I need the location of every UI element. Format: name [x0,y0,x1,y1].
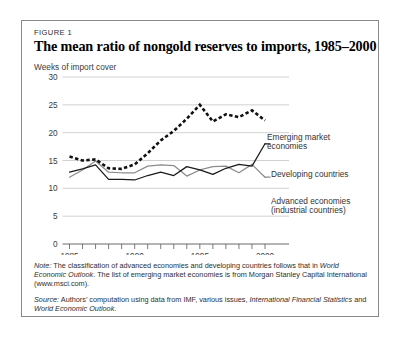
line-chart-svg: 051015202530 1985199019952000 [22,73,380,255]
legend-label-advanced-economies: Advanced economies (industrial countries… [271,197,350,216]
source-text-part2: and [352,295,366,304]
legend-label-emerging-market-economies: Emerging market economies [267,133,330,152]
svg-text:2000: 2000 [256,252,275,255]
series-line-emerging-market-economies [70,105,266,169]
svg-text:1990: 1990 [126,252,145,255]
source-text-part1: Authors’ computation using data from IMF… [59,295,249,304]
y-axis-tick-labels: 051015202530 [48,73,58,249]
source-lead-label: Source: [34,295,59,304]
figure-label: FIGURE 1 [34,28,72,37]
legend-emerging-line2: economies [267,141,307,151]
svg-text:30: 30 [48,73,58,82]
note-text-part1: The classification of advanced economies… [51,261,319,270]
svg-text:0: 0 [53,240,58,249]
figure-note: Note: The classification of advanced eco… [34,261,370,289]
gridlines-group [63,77,290,216]
svg-text:10: 10 [48,184,58,193]
legend-developing-line1: Developing countries [271,169,348,179]
source-italic-ifs: International Financial Statistics [250,295,353,304]
svg-text:15: 15 [48,157,58,166]
note-lead-label: Note: [34,261,51,270]
svg-text:1985: 1985 [60,252,79,255]
x-axis [63,244,290,249]
source-italic-weo-2: World Economic Outlook [34,304,114,313]
legend-label-developing-countries: Developing countries [271,170,348,179]
figure-card: FIGURE 1 The mean ratio of nongold reser… [21,20,379,317]
svg-text:5: 5 [53,212,58,221]
svg-text:1995: 1995 [191,252,210,255]
svg-text:20: 20 [48,129,58,138]
page-title: The mean ratio of nongold reserves to im… [34,38,372,55]
svg-text:25: 25 [48,101,58,110]
legend-advanced-line2: (industrial countries) [271,205,346,215]
source-text-part3: . [114,304,116,313]
figure-source: Source: Authors’ computation using data … [34,295,370,313]
x-axis-tick-labels: 1985199019952000 [60,252,274,255]
chart-plot-area: 051015202530 1985199019952000 [22,73,380,255]
y-axis-caption: Weeks of import cover [34,62,116,72]
